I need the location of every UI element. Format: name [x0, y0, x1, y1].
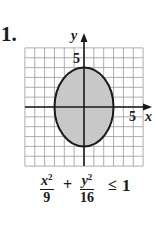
- x-axis-label: x: [144, 109, 152, 124]
- x-tick-label-5: 5: [129, 109, 136, 124]
- inequality: x2 9 + y2 16 ≤ 1: [36, 168, 146, 204]
- exponent: 2: [48, 172, 53, 182]
- plus-sign: +: [63, 176, 72, 194]
- denominator-16: 16: [80, 190, 94, 204]
- fraction-y-squared-over-16: y2 16: [80, 170, 94, 204]
- y-axis-arrow-icon: [81, 33, 88, 42]
- exponent: 2: [88, 172, 93, 182]
- numerator-x: x: [41, 173, 48, 188]
- denominator-9: 9: [40, 190, 54, 204]
- y-tick-label-5: 5: [73, 51, 80, 66]
- y-axis-label: y: [69, 28, 78, 43]
- fraction-x-squared-over-9: x2 9: [40, 170, 54, 204]
- rhs-value: 1: [122, 176, 131, 196]
- less-equal-sign: ≤: [108, 176, 117, 194]
